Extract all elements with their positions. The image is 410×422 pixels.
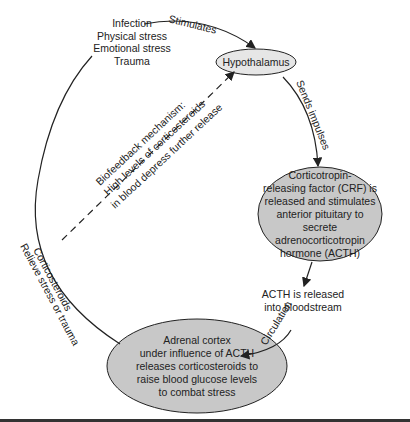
adrenal-text: Adrenal cortex under influence of ACTH r… — [107, 322, 287, 410]
acth-released-label: ACTH is released into bloodstream — [248, 288, 358, 313]
stressors-label: Infection Physical stress Emotional stre… — [72, 17, 192, 67]
feedback-label-2: High levels of corticosteroids — [101, 98, 207, 198]
crf-text: Corticotropin- releasing factor (CRF) is… — [258, 170, 382, 258]
hypothalamus-text: Hypothalamus — [216, 49, 296, 75]
sends-impulses-label: Sends impulses — [294, 78, 333, 151]
relieve-label-2: Relieve stress or trauma — [18, 241, 82, 347]
crf-to-acth-arrow — [304, 262, 312, 286]
